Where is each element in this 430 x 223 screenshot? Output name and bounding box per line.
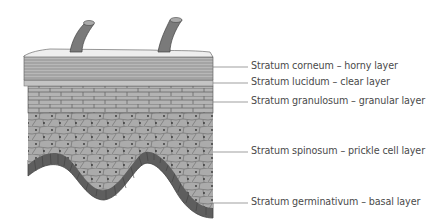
stratum-lucidum-shape xyxy=(24,80,213,86)
label-stratum-germinativum: Stratum germinativum – basal layer xyxy=(251,196,420,207)
hair-shaft-left xyxy=(70,24,94,52)
leader-lines xyxy=(213,67,248,203)
skin-surface xyxy=(24,49,213,57)
label-stratum-corneum: Stratum corneum – horny layer xyxy=(251,60,398,71)
label-stratum-lucidum: Stratum lucidum – clear layer xyxy=(251,76,390,87)
label-stratum-spinosum: Stratum spinosum – prickle cell layer xyxy=(251,145,425,156)
stratum-granulosum-shape xyxy=(28,86,213,113)
epidermis-diagram xyxy=(0,0,430,223)
stratum-corneum-shape xyxy=(24,56,213,80)
label-stratum-granulosum: Stratum granulosum – granular layer xyxy=(251,95,425,106)
hair-shaft-right xyxy=(158,20,182,52)
